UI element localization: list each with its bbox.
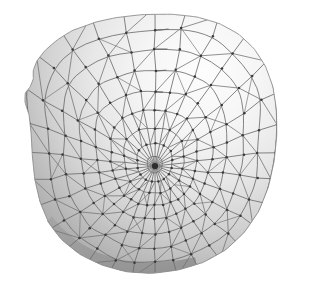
- surface-mesh-render: [0, 0, 309, 284]
- render-viewport: Quad-dominant surface mesh with radial p…: [0, 0, 309, 284]
- pole-singularity-vertex: [152, 163, 158, 169]
